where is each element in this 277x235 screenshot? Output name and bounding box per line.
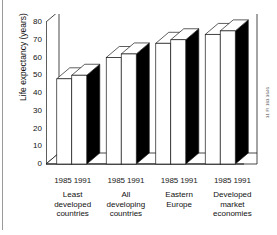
category-line: Europe [153,200,206,210]
y-axis-tick-labels: 01020304050607080 [24,14,42,172]
bar-front-face [220,31,235,164]
bars-layer [46,14,259,172]
x-axis-labels: 19851991Leastdevelopedcountries19851991A… [46,176,259,234]
y-tick-80: 80 [26,18,42,26]
y-tick-60: 60 [26,54,42,62]
x-group-1: 19851991Alldevelopingcountries [99,176,152,234]
bar-chart-svg [46,14,259,172]
category-label: Alldevelopingcountries [99,190,152,219]
bar-front-face [205,34,220,164]
year-label-1991: 1991 [74,176,91,186]
bar-front-face [57,79,72,164]
year-label-1985: 1985 [107,176,124,186]
x-group-3: 19851991Developedmarketeconomies [206,176,259,234]
x-group-years: 19851991 [206,176,259,186]
x-group-years: 19851991 [99,176,152,186]
y-tick-50: 50 [26,71,42,79]
x-group-2: 19851991EasternEurope [153,176,206,234]
x-group-years: 19851991 [46,176,99,186]
bar-side-face [186,29,199,164]
y-tick-40: 40 [26,89,42,97]
bar-3-1991 [220,20,248,164]
y-tick-20: 20 [26,125,42,133]
category-label: Developedmarketeconomies [206,190,259,219]
bar-1-1991 [121,43,149,164]
y-tick-10: 10 [26,142,42,150]
bar-side-face [87,64,100,164]
category-line: Least [46,190,99,200]
year-label-1985: 1985 [54,176,71,186]
category-label: EasternEurope [153,190,206,209]
year-label-1991: 1991 [127,176,144,186]
category-line: Eastern [153,190,206,200]
bar-front-face [156,43,171,164]
x-group-years: 19851991 [153,176,206,186]
category-line: developing [99,200,152,210]
category-line: countries [99,209,152,219]
figure-container: Life expectancy (years) 31 FI 183 3646 0… [0,0,277,235]
category-line: market [206,200,259,210]
plot-area [46,14,259,172]
category-line: developed [46,200,99,210]
bar-front-face [106,58,121,165]
bar-side-face [235,20,248,164]
category-label: Leastdevelopedcountries [46,190,99,219]
bar-front-face [72,75,87,164]
category-line: countries [46,209,99,219]
chart-geometry [46,14,257,164]
x-group-0: 19851991Leastdevelopedcountries [46,176,99,234]
year-label-1991: 1991 [180,176,197,186]
bar-front-face [171,40,186,164]
side-credit-text: 31 FI 183 3646 [265,80,270,126]
category-line: economies [206,209,259,219]
bar-0-1991 [72,64,100,164]
y-tick-70: 70 [26,36,42,44]
bar-2-1991 [171,29,199,164]
bar-front-face [121,54,136,164]
year-label-1985: 1985 [214,176,231,186]
year-label-1991: 1991 [233,176,250,186]
bar-side-face [136,43,149,164]
year-label-1985: 1985 [161,176,178,186]
y-tick-30: 30 [26,107,42,115]
page-edge-rule [2,0,3,230]
y-tick-0: 0 [26,160,42,168]
category-line: Developed [206,190,259,200]
category-line: All [99,190,152,200]
